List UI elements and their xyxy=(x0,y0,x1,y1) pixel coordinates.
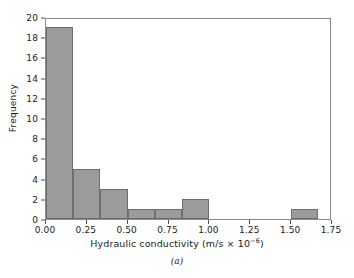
y-axis-tick-label: 0 xyxy=(18,215,38,225)
y-axis-tick-label: 12 xyxy=(18,94,38,104)
y-axis-tick-label: 16 xyxy=(18,53,38,63)
histogram-bar xyxy=(291,209,318,219)
x-axis-tick-label: 0.75 xyxy=(157,225,177,235)
plot-area xyxy=(45,18,331,220)
histogram-figure: Frequency 02468101214161820 0.000.250.50… xyxy=(0,0,354,278)
x-axis-tick-mark xyxy=(127,220,128,224)
x-axis-tick-label: 1.50 xyxy=(280,225,300,235)
x-axis-tick-mark xyxy=(208,220,209,224)
y-axis-tick-label: 2 xyxy=(18,195,38,205)
x-axis-label-exponent: −6 xyxy=(250,237,260,245)
histogram-bar xyxy=(182,199,209,219)
x-axis-label-main: Hydraulic conductivity (m/s × 10 xyxy=(90,238,250,249)
x-axis-tick-label: 0.25 xyxy=(76,225,96,235)
x-axis-label: Hydraulic conductivity (m/s × 10−6) xyxy=(0,237,354,249)
histogram-bar xyxy=(100,189,127,219)
x-axis-tick-mark xyxy=(45,220,46,224)
histogram-bar xyxy=(155,209,182,219)
y-axis-tick-label: 6 xyxy=(18,154,38,164)
x-axis-tick-mark xyxy=(249,220,250,224)
x-axis-tick-label: 0.50 xyxy=(116,225,136,235)
figure-caption: (a) xyxy=(0,256,354,266)
x-axis-tick-mark xyxy=(168,220,169,224)
x-axis-tick-label: 1.25 xyxy=(239,225,259,235)
y-axis-tick-label: 4 xyxy=(18,175,38,185)
histogram-bar xyxy=(73,169,100,220)
x-axis-tick-mark xyxy=(290,220,291,224)
x-axis-tick-label: 1.75 xyxy=(321,225,341,235)
y-axis-tick-label: 8 xyxy=(18,134,38,144)
x-axis-tick-label: 1.00 xyxy=(198,225,218,235)
x-axis-tick-label: 0.00 xyxy=(35,225,55,235)
x-axis-tick-mark xyxy=(331,220,332,224)
histogram-bar xyxy=(46,27,73,219)
histogram-bar xyxy=(128,209,155,219)
x-axis-label-tail: ) xyxy=(260,238,264,249)
histogram-bars xyxy=(46,19,330,219)
x-axis-tick-mark xyxy=(86,220,87,224)
y-axis-tick-label: 20 xyxy=(18,13,38,23)
y-axis-tick-label: 18 xyxy=(18,33,38,43)
y-axis-tick-label: 14 xyxy=(18,74,38,84)
y-axis-tick-label: 10 xyxy=(18,114,38,124)
